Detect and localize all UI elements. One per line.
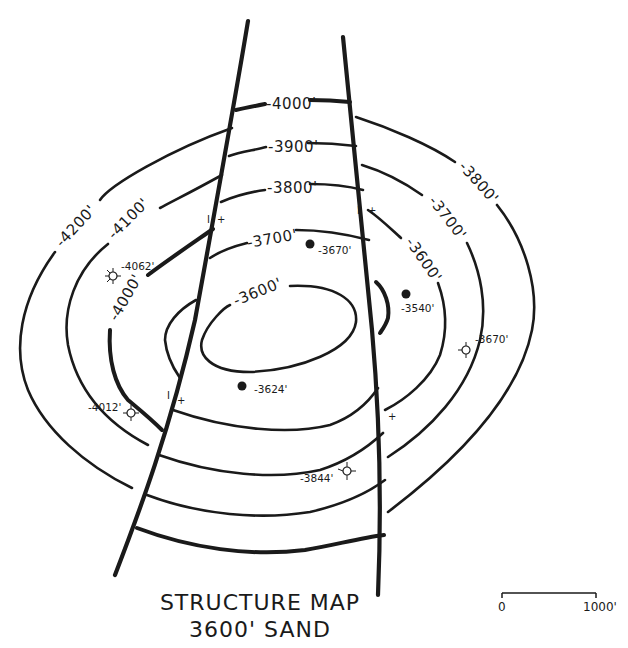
producing-well-icon — [306, 240, 315, 249]
well-depth-label: -3670' — [318, 244, 351, 256]
map-subtitle: 3600' SAND — [0, 617, 520, 642]
contour-3900-center-lower — [147, 480, 385, 516]
well-depth-label: -4062' — [121, 260, 154, 272]
well-depth-label: -4012' — [88, 401, 121, 413]
contour-3800-right-upper — [356, 117, 455, 162]
contour-3700-center — [210, 243, 247, 258]
contour-label-4200-left: -4200' — [52, 201, 100, 250]
contour-3800-center-right — [310, 184, 363, 190]
fault-marker-down: I — [167, 390, 170, 401]
contour-4000-left-lower — [110, 330, 162, 430]
contour-4000-center-lower — [137, 528, 384, 552]
fault-marker-up: + — [217, 214, 225, 225]
fault-marker-up: + — [388, 411, 396, 422]
contour-label-3600-right: -3600' — [402, 234, 446, 286]
fault-marker-down: I — [357, 205, 360, 216]
well-depth-label: -3844' — [300, 472, 333, 484]
scale-end-label: 1000' — [583, 600, 617, 614]
contour-label-3900: -3900' — [268, 138, 319, 156]
producing-well-icon — [402, 290, 411, 299]
fault-marker-up: + — [177, 395, 185, 406]
well-depth-label: -3540' — [401, 302, 434, 314]
well-depth-label: -3670' — [475, 333, 508, 345]
contour-label-4100-left: -4100' — [104, 194, 153, 243]
contour-4100-left-lower — [67, 244, 148, 445]
contour-label-3800-center: -3800' — [267, 179, 318, 197]
dry-hole-well-icon — [338, 462, 356, 480]
contour-3700-center-right — [296, 230, 369, 240]
producing-well-icon — [238, 382, 247, 391]
contour-label-3600-center: -3600' — [231, 274, 285, 310]
contour-4100-left — [160, 175, 222, 208]
fault-right — [343, 37, 380, 595]
contour-3700-right-upper — [362, 165, 422, 195]
contour-3600-center-ellipse — [201, 286, 356, 372]
dry-hole-well-icon — [105, 268, 121, 284]
fault-marker-down: I — [376, 411, 379, 422]
contour-3900-center — [229, 147, 266, 156]
contour-label-4000-top: -4000' — [266, 95, 317, 113]
contour-label-3700-right: -3700' — [425, 192, 470, 243]
contour-3800-center — [221, 190, 265, 202]
contour-4200-left — [100, 128, 232, 200]
map-title: STRUCTURE MAP — [0, 590, 520, 615]
contour-4000-center-top — [236, 104, 265, 110]
structure-map: -4000' -3900' -3800' -3700' -3600' -4200… — [0, 0, 628, 648]
well-depth-label: -3624' — [254, 383, 287, 395]
fault-marker-up: + — [368, 205, 376, 216]
contour-label-3700-center: -3700' — [246, 225, 299, 252]
dry-hole-well-icon — [458, 342, 470, 358]
fault-marker-down: I — [207, 214, 210, 225]
contour-label-3800-right: -3800' — [455, 158, 502, 208]
contour-3600-right-loop — [376, 282, 388, 333]
